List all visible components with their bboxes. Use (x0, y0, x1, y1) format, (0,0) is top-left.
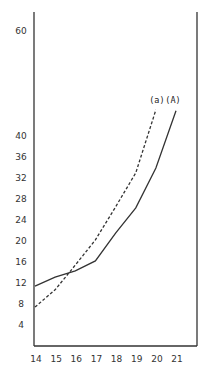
y-tick-label: 4 (18, 320, 24, 330)
y-tick-label: 40 (15, 131, 27, 141)
axes (34, 12, 197, 346)
x-tick-label: 18 (111, 354, 123, 364)
series-labels: (A)(a) (149, 95, 181, 105)
y-tick-label: 32 (15, 173, 26, 183)
series-lines (35, 110, 176, 307)
line-chart: 48121620242832364060 1415161718192021 (A… (0, 0, 208, 371)
x-tick-label: 20 (151, 354, 163, 364)
y-tick-label: 12 (15, 278, 26, 288)
y-tick-label: 20 (15, 236, 27, 246)
x-tick-label: 17 (91, 354, 102, 364)
series-label: (A) (165, 95, 180, 105)
x-tick-label: 19 (131, 354, 143, 364)
y-tick-label: 24 (15, 215, 27, 225)
x-tick-labels: 1415161718192021 (30, 354, 183, 364)
y-tick-label: 16 (15, 257, 27, 267)
x-tick-label: 14 (30, 354, 42, 364)
x-tick-label: 16 (71, 354, 83, 364)
y-tick-label: 60 (15, 26, 27, 36)
series-A-solid-line (35, 111, 176, 286)
y-tick-labels: 48121620242832364060 (15, 26, 27, 330)
y-tick-label: 36 (15, 152, 27, 162)
x-tick-label: 15 (50, 354, 61, 364)
series-label: (a) (149, 95, 164, 105)
x-tick-label: 21 (171, 354, 182, 364)
y-tick-label: 28 (15, 194, 27, 204)
y-tick-label: 8 (18, 299, 24, 309)
